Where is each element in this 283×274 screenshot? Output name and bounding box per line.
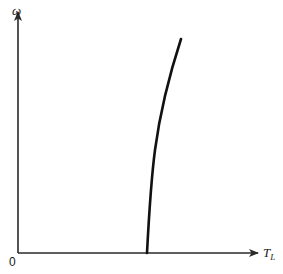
x-axis-label: TL: [263, 246, 275, 262]
y-axis-label: ω: [12, 4, 21, 17]
origin-label: 0: [9, 256, 16, 268]
chart-figure: ω 0 TL: [0, 0, 283, 274]
characteristic-curve: [147, 39, 181, 253]
x-axis-label-subscript: L: [270, 252, 275, 262]
chart-svg: [0, 0, 283, 274]
